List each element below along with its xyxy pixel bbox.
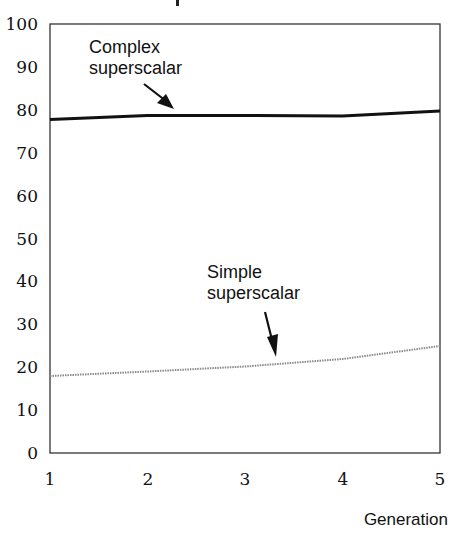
x-axis-label: Generation xyxy=(364,510,448,530)
series-complex-superscalar xyxy=(50,111,440,120)
arrow-simple-icon xyxy=(265,312,278,357)
plot-frame xyxy=(50,24,440,453)
annotation-complex-superscalar: Complex superscalar xyxy=(89,37,182,79)
annotation-simple-line1: Simple xyxy=(207,262,300,283)
annotation-simple-line2: superscalar xyxy=(207,283,300,304)
arrow-complex-icon xyxy=(144,84,174,109)
cropped-text-fragment xyxy=(176,0,179,6)
annotation-complex-line1: Complex xyxy=(89,37,182,58)
series-simple-superscalar xyxy=(50,346,440,376)
annotation-complex-line2: superscalar xyxy=(89,58,182,79)
annotation-simple-superscalar: Simple superscalar xyxy=(207,262,300,304)
